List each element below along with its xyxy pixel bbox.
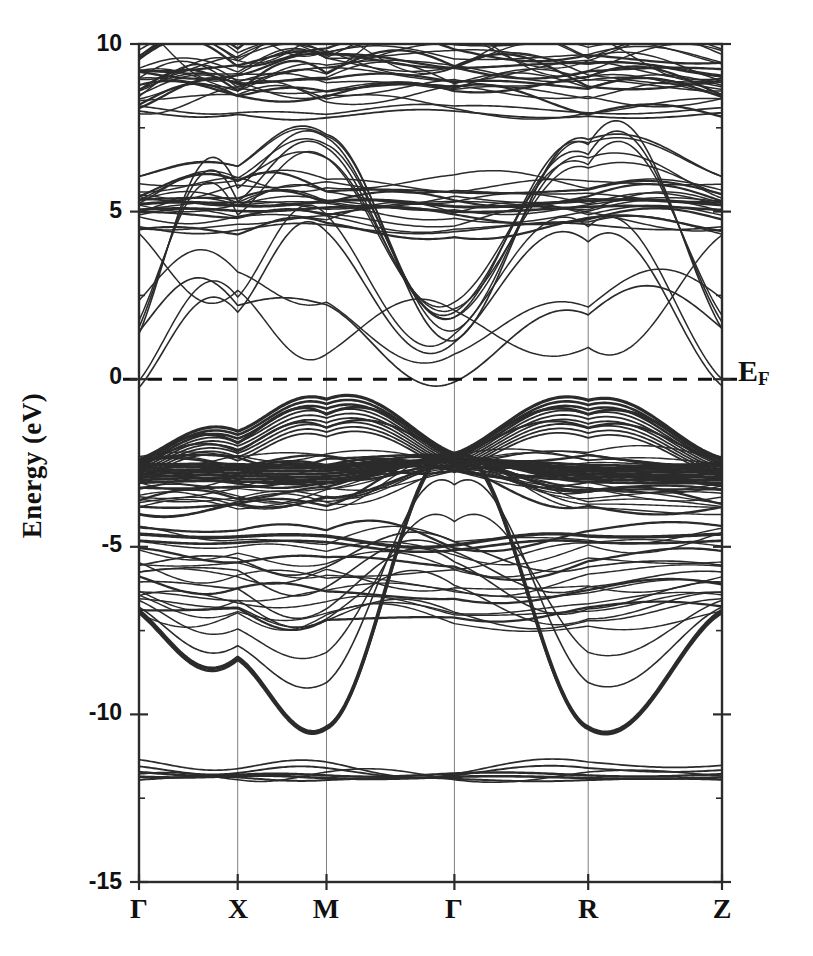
band-structure-figure: Energy (eV) 10 5 0 -5 -10 -15 Γ X M Γ R …	[0, 0, 813, 956]
band-structure-plot	[0, 0, 813, 956]
band-curves	[139, 17, 722, 782]
